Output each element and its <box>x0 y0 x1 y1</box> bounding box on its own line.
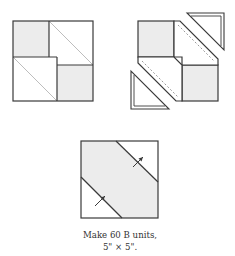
diagram-canvas <box>0 0 235 256</box>
figure-exploded-block <box>131 13 224 109</box>
figure-finished-b-unit <box>81 141 158 218</box>
caption-line-2: 5" × 5". <box>60 241 180 253</box>
caption-line-1: Make 60 B units, <box>60 229 180 241</box>
grey-square-bottom-right <box>57 65 93 101</box>
grey-square-bottom-right <box>182 65 218 101</box>
grey-square-top-left <box>13 21 49 57</box>
grey-square-top-left <box>138 21 174 57</box>
figure-original-block <box>13 21 93 101</box>
figure-caption: Make 60 B units, 5" × 5". <box>60 229 180 253</box>
